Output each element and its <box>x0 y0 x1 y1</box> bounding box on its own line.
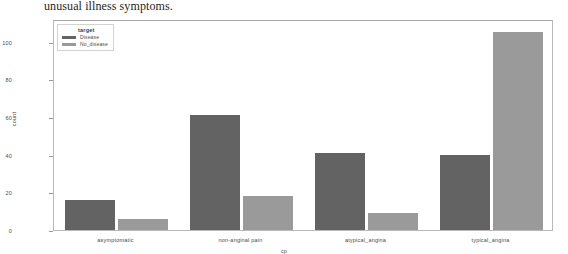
y-axis-tick-label: 20 <box>0 190 12 196</box>
y-axis-tick-label: 40 <box>0 153 12 159</box>
y-axis-tick-label: 80 <box>0 77 12 83</box>
legend-entry[interactable]: Disease <box>62 34 108 40</box>
x-axis-tick-label: non-anginal pain <box>178 237 303 243</box>
x-axis-title: cp <box>0 248 568 254</box>
bar-disease[interactable] <box>440 155 490 230</box>
bar-disease[interactable] <box>190 115 240 230</box>
bar-group <box>429 21 554 230</box>
bar-no-disease[interactable] <box>118 219 168 230</box>
legend-entry-label: No_disease <box>80 41 108 47</box>
bar-no-disease[interactable] <box>243 196 293 230</box>
legend-entries: DiseaseNo_disease <box>62 34 108 47</box>
legend-title: target <box>78 27 108 33</box>
legend-entry-label: Disease <box>80 34 99 40</box>
bar-no-disease[interactable] <box>368 213 418 230</box>
plot-area <box>53 20 553 231</box>
legend-entry[interactable]: No_disease <box>62 41 108 47</box>
chart-legend: target DiseaseNo_disease <box>57 24 114 51</box>
x-axis-tick-label: atypical_angina <box>303 237 428 243</box>
y-axis-tick-label: 100 <box>0 40 12 46</box>
bar-group <box>179 21 304 230</box>
legend-swatch-icon <box>62 43 76 46</box>
x-axis-tick-label: typical_angina <box>428 237 553 243</box>
legend-swatch-icon <box>62 36 76 39</box>
bar-disease[interactable] <box>65 200 115 230</box>
y-axis-tick-label: 0 <box>0 228 12 234</box>
y-axis-tick-mark <box>49 231 53 232</box>
bar-group <box>54 21 179 230</box>
x-axis-tick-label: asymptomatic <box>53 237 178 243</box>
bar-group <box>304 21 429 230</box>
y-axis-tick-label: 60 <box>0 115 12 121</box>
bar-disease[interactable] <box>315 153 365 230</box>
bars-layer <box>54 21 552 230</box>
bar-no-disease[interactable] <box>493 32 543 230</box>
bar-chart-figure: count 020406080100 asymptomaticnon-angin… <box>0 12 568 252</box>
